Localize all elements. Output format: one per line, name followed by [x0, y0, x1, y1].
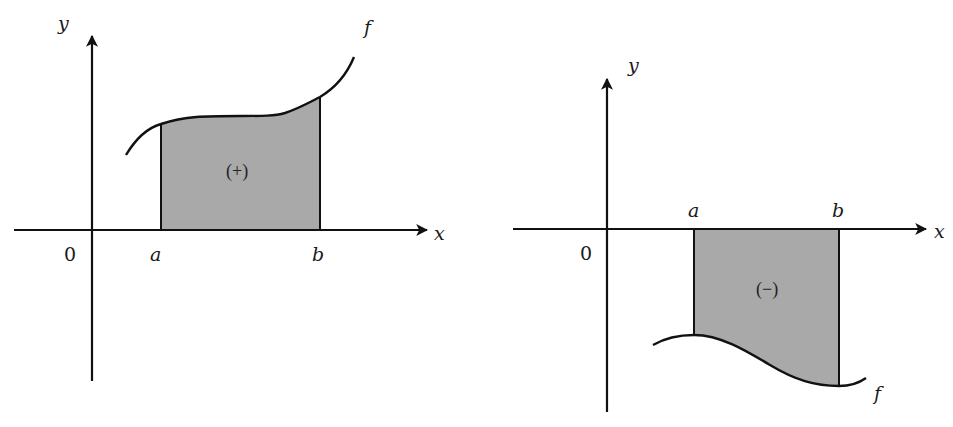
- region-sign-label: (−): [756, 279, 778, 300]
- left-panel: y x 0 a b f (+): [14, 12, 445, 381]
- curve-label: f: [872, 382, 884, 404]
- x-axis-label: x: [434, 222, 445, 244]
- origin-label: 0: [580, 242, 592, 264]
- bound-b-label: b: [832, 199, 844, 221]
- bound-a-label: a: [688, 199, 699, 221]
- origin-label: 0: [64, 243, 76, 265]
- x-axis-label: x: [934, 220, 945, 242]
- right-panel: y x 0 a b f (−): [513, 54, 945, 412]
- bound-b-label: b: [312, 243, 324, 265]
- curve-label: f: [362, 16, 374, 38]
- integral-sign-diagram: y x 0 a b f (+) y x 0 a b f (−): [0, 0, 953, 427]
- region-sign-label: (+): [226, 161, 248, 182]
- y-axis-label: y: [627, 54, 639, 76]
- y-axis-label: y: [57, 12, 69, 34]
- bound-a-label: a: [150, 243, 161, 265]
